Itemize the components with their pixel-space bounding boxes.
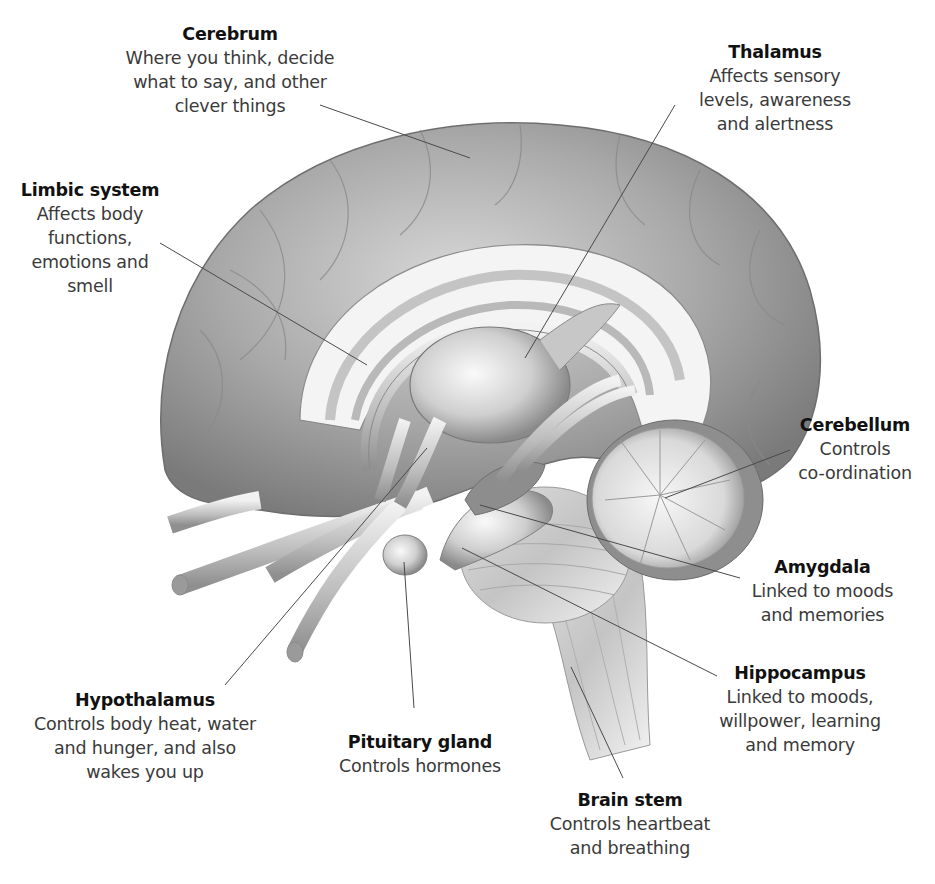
label-limbic-system: Limbic system Affects body functions, em… <box>5 178 175 298</box>
label-hypothalamus-title: Hypothalamus <box>10 688 280 712</box>
label-thalamus: Thalamus Affects sensory levels, awarene… <box>675 40 875 136</box>
label-brain-stem: Brain stem Controls heartbeat and breath… <box>530 788 730 860</box>
cerebellum-shape <box>587 420 763 580</box>
olfactory-tracts <box>170 495 430 662</box>
label-thalamus-title: Thalamus <box>675 40 875 64</box>
label-cerebellum-description: Controls co-ordination <box>780 437 930 485</box>
label-limbic-system-description: Affects body functions, emotions and sme… <box>5 202 175 298</box>
label-cerebellum-title: Cerebellum <box>780 413 930 437</box>
label-amygdala-title: Amygdala <box>740 555 905 579</box>
label-amygdala: Amygdala Linked to moods and memories <box>740 555 905 627</box>
label-pituitary-gland-title: Pituitary gland <box>320 730 520 754</box>
label-hypothalamus-description: Controls body heat, water and hunger, an… <box>10 712 280 784</box>
leader-pituitary-gland <box>404 562 414 708</box>
label-hippocampus-description: Linked to moods, willpower, learning and… <box>700 685 900 757</box>
label-cerebrum: Cerebrum Where you think, decide what to… <box>90 22 370 118</box>
label-hippocampus-title: Hippocampus <box>700 661 900 685</box>
label-cerebellum: Cerebellum Controls co-ordination <box>780 413 930 485</box>
label-limbic-system-title: Limbic system <box>5 178 175 202</box>
label-cerebrum-title: Cerebrum <box>90 22 370 46</box>
label-amygdala-description: Linked to moods and memories <box>740 579 905 627</box>
label-pituitary-gland-description: Controls hormones <box>320 754 520 778</box>
label-thalamus-description: Affects sensory levels, awareness and al… <box>675 64 875 136</box>
pituitary-gland-shape <box>383 535 427 575</box>
label-brain-stem-title: Brain stem <box>530 788 730 812</box>
label-brain-stem-description: Controls heartbeat and breathing <box>530 812 730 860</box>
label-hypothalamus: Hypothalamus Controls body heat, water a… <box>10 688 280 784</box>
label-pituitary-gland: Pituitary gland Controls hormones <box>320 730 520 778</box>
label-hippocampus: Hippocampus Linked to moods, willpower, … <box>700 661 900 757</box>
label-cerebrum-description: Where you think, decide what to say, and… <box>90 46 370 118</box>
